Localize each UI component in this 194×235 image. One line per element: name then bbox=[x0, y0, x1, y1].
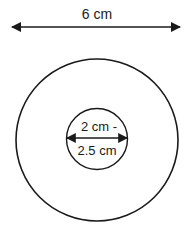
outer-circle bbox=[16, 59, 178, 221]
outer-dimension-label: 6 cm bbox=[82, 6, 112, 22]
inner-dimension-label-line1: 2 cm - bbox=[81, 119, 117, 134]
inner-circle bbox=[67, 109, 128, 170]
inner-dimension-label-line2: 2.5 cm bbox=[77, 143, 116, 158]
concentric-circles-diagram: 6 cm 2 cm - 2.5 cm bbox=[0, 0, 194, 235]
